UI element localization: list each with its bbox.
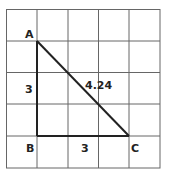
vertex-c-label: C (131, 142, 139, 155)
side-ab-label: 3 (25, 83, 33, 96)
vertex-b-label: B (26, 142, 34, 155)
triangle (37, 41, 129, 136)
side-bc-label: 3 (81, 142, 89, 155)
side-ac (37, 41, 129, 136)
vertex-a-label: A (25, 28, 34, 41)
grid-diagram: A B C 3 3 4.24 (0, 0, 170, 181)
side-ac-label: 4.24 (85, 79, 112, 92)
